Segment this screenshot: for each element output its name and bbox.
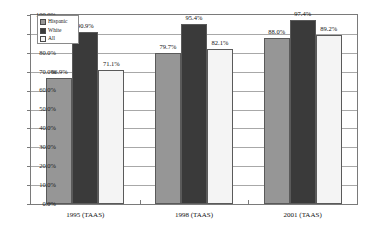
plot-area: 66.9%90.9%71.1%79.7%95.4%82.1%88.0%97.4%… (30, 14, 358, 205)
y-axis-tick-label: 10.0% (10, 182, 56, 189)
chart-legend: Hispanic White All (37, 15, 79, 44)
x-axis-group-separator (248, 200, 249, 204)
bar-value-label: 95.4% (175, 15, 213, 22)
bar (290, 20, 316, 204)
bars-layer: 66.9%90.9%71.1%79.7%95.4%82.1%88.0%97.4%… (31, 15, 357, 204)
y-axis-tick (27, 91, 30, 92)
y-axis-tick (27, 204, 30, 205)
bar (264, 38, 290, 204)
y-axis-tick (27, 128, 30, 129)
x-axis-tick-label: 1998 (TAAS) (140, 211, 249, 219)
y-axis-tick (27, 110, 30, 111)
legend-swatch-icon (40, 19, 46, 25)
bar (72, 32, 98, 204)
y-axis-tick-label: 60.0% (10, 87, 56, 94)
bar-value-label: 97.4% (284, 11, 322, 18)
x-axis-tick-label: 2001 (TAAS) (248, 211, 357, 219)
legend-label: All (48, 36, 55, 42)
bar (207, 49, 233, 204)
y-axis-tick (27, 72, 30, 73)
legend-label: Hispanic (48, 19, 68, 25)
y-axis-tick (27, 185, 30, 186)
y-axis-tick-label: 70.0% (10, 69, 56, 76)
bar-chart: 66.9%90.9%71.1%79.7%95.4%82.1%88.0%97.4%… (0, 0, 387, 240)
bar-value-label: 71.1% (92, 61, 130, 68)
legend-item-all: All (40, 35, 76, 43)
y-axis-tick-label: 80.0% (10, 50, 56, 57)
bar (98, 70, 124, 204)
y-axis-tick-label: 30.0% (10, 144, 56, 151)
legend-label: White (48, 28, 61, 34)
y-axis-tick (27, 15, 30, 16)
x-axis-tick-label: 1995 (TAAS) (31, 211, 140, 219)
bar (316, 35, 342, 204)
y-axis-tick-label: 20.0% (10, 163, 56, 170)
y-axis-tick (27, 34, 30, 35)
legend-item-white: White (40, 27, 76, 35)
legend-item-hispanic: Hispanic (40, 18, 76, 26)
legend-swatch-icon (40, 36, 46, 42)
y-axis-tick-label: 50.0% (10, 106, 56, 113)
bar (155, 53, 181, 204)
bar-value-label: 82.1% (201, 40, 239, 47)
y-axis-tick (27, 166, 30, 167)
bar-value-label: 89.2% (310, 26, 348, 33)
y-axis-tick (27, 147, 30, 148)
bar (181, 24, 207, 204)
y-axis-tick-label: 0.0% (10, 201, 56, 208)
chart-title-cropped (0, 0, 387, 2)
y-axis-tick (27, 53, 30, 54)
x-axis-group-separator (140, 200, 141, 204)
legend-swatch-icon (40, 28, 46, 34)
y-axis-tick-label: 40.0% (10, 125, 56, 132)
